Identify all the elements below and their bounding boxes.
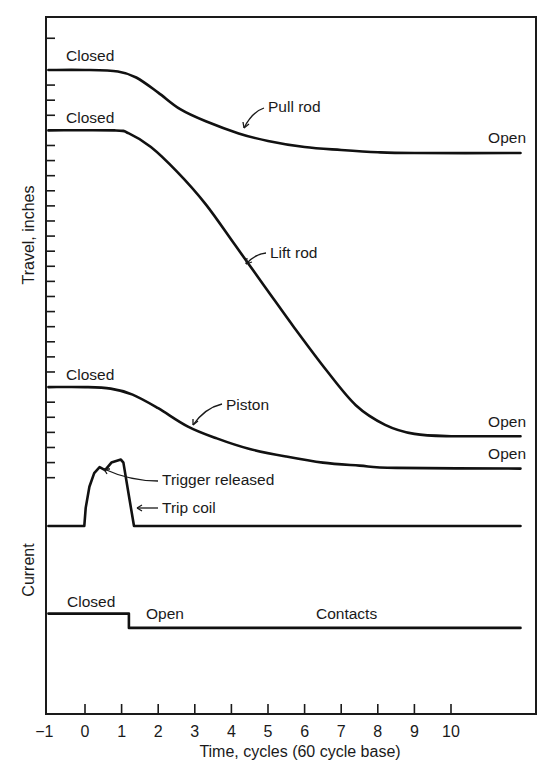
series-piston: [48, 387, 520, 469]
series-curves: [48, 70, 520, 628]
trip-coil-callout: Trip coil: [162, 499, 216, 516]
x-tick-label: 4: [227, 723, 236, 740]
y-axis-label-travel: Travel, inches: [20, 186, 37, 285]
pull-rod-closed-label: Closed: [66, 47, 114, 64]
lift-rod-open-label: Open: [488, 413, 526, 430]
piston-open-label: Open: [488, 445, 526, 462]
contacts-closed-label: Closed: [67, 593, 115, 610]
x-axis-tick-labels: −1012345678910: [35, 723, 460, 740]
plot-frame: [46, 17, 536, 714]
piston-closed-label: Closed: [66, 366, 114, 383]
x-tick-label: 0: [81, 723, 90, 740]
x-tick-label: 10: [442, 723, 460, 740]
lift-rod-callout: Lift rod: [270, 244, 317, 261]
x-tick-label: 5: [264, 723, 273, 740]
lift-rod-closed-label: Closed: [66, 109, 114, 126]
x-tick-label: 3: [190, 723, 199, 740]
pull-rod-open-label: Open: [488, 129, 526, 146]
x-axis-ticks: [85, 704, 451, 714]
timing-chart: −1012345678910 Time, cycles (60 cycle ba…: [0, 0, 553, 776]
x-tick-label: 8: [373, 723, 382, 740]
x-tick-label: 2: [154, 723, 163, 740]
pull-rod-callout: Pull rod: [268, 98, 321, 115]
y-axis-label-current: Current: [20, 543, 37, 597]
x-tick-label: 9: [410, 723, 419, 740]
contacts-label: Contacts: [316, 605, 377, 622]
trigger-released-arrow: [104, 469, 158, 481]
piston-callout: Piston: [226, 396, 269, 413]
x-tick-label: 7: [337, 723, 346, 740]
x-tick-label: −1: [35, 723, 53, 740]
series-contacts: [48, 614, 520, 628]
trigger-released-callout: Trigger released: [162, 471, 274, 488]
y-minor-ticks: [46, 38, 55, 477]
x-tick-label: 1: [117, 723, 126, 740]
x-axis-label: Time, cycles (60 cycle base): [199, 743, 400, 760]
x-tick-label: 6: [300, 723, 309, 740]
contacts-open-label: Open: [146, 605, 184, 622]
